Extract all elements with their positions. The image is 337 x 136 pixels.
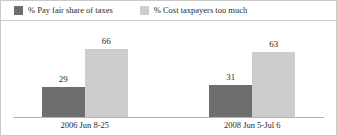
bar-group-2006: 29 66 2006 Jun 8-25 — [1, 21, 169, 117]
bar-chart: % Pay fair share of taxes % Cost taxpaye… — [0, 0, 337, 136]
bar-value-2006-cost-taxpayers: 66 — [102, 37, 111, 46]
chart-legend: % Pay fair share of taxes % Cost taxpaye… — [1, 1, 336, 20]
bar-value-2008-pay-fair-share: 31 — [226, 73, 235, 82]
bar-group-2008: 31 63 2008 Jun 5-Jul 6 — [169, 21, 337, 117]
x-axis-line — [13, 117, 324, 118]
bar-value-2006-pay-fair-share: 29 — [59, 75, 68, 84]
legend-item-cost-taxpayers[interactable]: % Cost taxpayers too much — [140, 6, 247, 15]
bar-groups: 29 66 2006 Jun 8-25 31 — [1, 21, 336, 117]
bar-2008-cost-taxpayers[interactable] — [252, 52, 295, 117]
legend-label-cost-taxpayers: % Cost taxpayers too much — [154, 6, 247, 15]
bar-wrap-2008-cost-taxpayers: 63 — [252, 21, 295, 117]
plot-area: 29 66 2006 Jun 8-25 31 — [1, 21, 336, 135]
legend-swatch-cost-taxpayers — [140, 6, 149, 15]
legend-swatch-pay-fair-share — [14, 6, 23, 15]
bar-wrap-2006-cost-taxpayers: 66 — [85, 21, 128, 117]
legend-item-pay-fair-share[interactable]: % Pay fair share of taxes — [14, 6, 113, 15]
x-axis-label-2006: 2006 Jun 8-25 — [1, 120, 169, 130]
bar-wrap-2008-pay-fair-share: 31 — [209, 21, 252, 117]
bar-2006-cost-taxpayers[interactable] — [85, 49, 128, 117]
bar-2008-pay-fair-share[interactable] — [209, 85, 252, 117]
legend-label-pay-fair-share: % Pay fair share of taxes — [28, 6, 113, 15]
bar-group-2006-bars: 29 66 — [1, 21, 169, 117]
bar-wrap-2006-pay-fair-share: 29 — [42, 21, 85, 117]
bar-group-2008-bars: 31 63 — [169, 21, 337, 117]
bar-value-2008-cost-taxpayers: 63 — [269, 40, 278, 49]
x-axis-label-2008: 2008 Jun 5-Jul 6 — [169, 120, 337, 130]
bar-2006-pay-fair-share[interactable] — [42, 87, 85, 117]
